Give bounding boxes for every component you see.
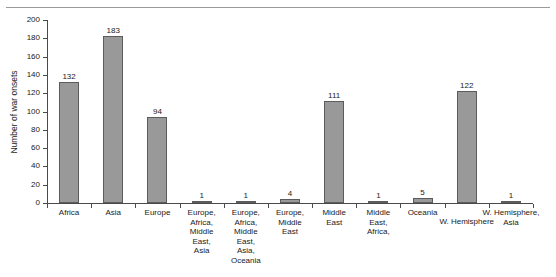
plot-area: 200180160140120100806040200 132183941141…	[47, 20, 533, 204]
bar-value-label: 1	[199, 191, 203, 200]
bar-value-label: 5	[420, 188, 424, 197]
y-tick-label: 0	[36, 199, 40, 207]
top-horizontal-rule	[6, 7, 550, 8]
bar: 4	[280, 199, 300, 203]
y-tick-mark	[43, 20, 47, 21]
bar: 183	[103, 36, 123, 203]
y-axis-line	[47, 20, 48, 204]
x-axis-label: Middle East	[312, 208, 356, 227]
y-tick-mark	[43, 130, 47, 131]
y-axis-title: Number of war onsets	[8, 20, 20, 204]
x-axis-label: Middle East, Africa,	[356, 208, 400, 237]
bar: 1	[501, 201, 521, 203]
y-tick-mark	[43, 57, 47, 58]
y-tick-label: 180	[27, 34, 40, 42]
x-tick-mark	[445, 204, 446, 208]
y-tick-label: 80	[31, 126, 40, 134]
y-tick-label: 100	[27, 108, 40, 116]
bar-value-label: 1	[509, 191, 513, 200]
bar-value-label: 1	[376, 191, 380, 200]
bar-value-label: 111	[328, 91, 340, 100]
bar-value-label: 94	[153, 107, 162, 116]
bar-value-label: 122	[460, 81, 473, 90]
bar-value-label: 1	[244, 191, 248, 200]
x-axis-label: Europe, Middle East	[268, 208, 312, 237]
bar-value-label: 132	[62, 72, 75, 81]
bar: 111	[324, 101, 344, 203]
bar: 1	[236, 201, 256, 203]
y-tick-label: 120	[27, 89, 40, 97]
y-tick-mark	[43, 38, 47, 39]
x-axis-label: Europe	[135, 208, 179, 218]
y-tick-mark	[43, 93, 47, 94]
bar: 5	[413, 198, 433, 203]
bar-chart-figure: Number of war onsets 2001801601401201008…	[0, 0, 556, 277]
x-axis-label: Europe, Africa, Middle East, Asia	[180, 208, 224, 256]
y-tick-label: 20	[31, 181, 40, 189]
y-tick-mark	[43, 148, 47, 149]
bar-value-label: 183	[107, 26, 120, 35]
bar-value-label: 4	[288, 189, 292, 198]
bar: 94	[147, 117, 167, 203]
bar: 1	[368, 201, 388, 203]
x-axis-label: Europe, Africa, Middle East, Asia, Ocean…	[224, 208, 268, 266]
y-tick-label: 40	[31, 162, 40, 170]
x-axis-line	[47, 203, 533, 204]
y-tick-label: 60	[31, 144, 40, 152]
y-tick-label: 200	[27, 16, 40, 24]
x-axis-label: Africa	[47, 208, 91, 218]
x-axis-label: W. Hemisphere, Asia	[476, 208, 546, 227]
bar: 132	[59, 82, 79, 203]
bar: 122	[457, 91, 477, 203]
y-tick-mark	[43, 185, 47, 186]
y-tick-label: 160	[27, 53, 40, 61]
y-tick-mark	[43, 166, 47, 167]
bar: 1	[192, 201, 212, 203]
y-tick-mark	[43, 75, 47, 76]
y-tick-label: 140	[27, 71, 40, 79]
y-tick-mark	[43, 112, 47, 113]
x-axis-label: Asia	[91, 208, 135, 218]
